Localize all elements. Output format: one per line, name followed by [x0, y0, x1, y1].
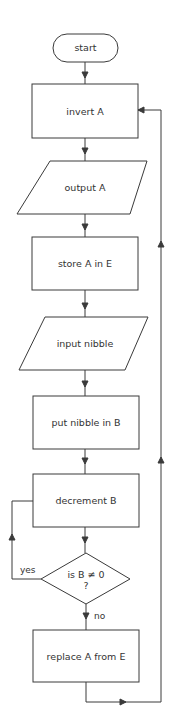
store-a-in-e-label: store A in E [32, 258, 138, 269]
output-a-label: output A [32, 182, 138, 193]
invert-a-label: invert A [32, 106, 138, 117]
put-nibble-in-b-label: put nibble in B [33, 417, 139, 428]
yes-edge-label: yes [20, 565, 36, 575]
start-label: start [53, 42, 118, 53]
decrement-b-label: decrement B [33, 495, 139, 506]
input-nibble-label: input nibble [32, 338, 138, 349]
replace-a-from-e-label: replace A from E [33, 651, 139, 662]
decision-label-line2: ? [41, 580, 131, 591]
decision-label-line1: is B ≠ 0 [41, 569, 131, 580]
no-edge-label: no [94, 611, 105, 621]
